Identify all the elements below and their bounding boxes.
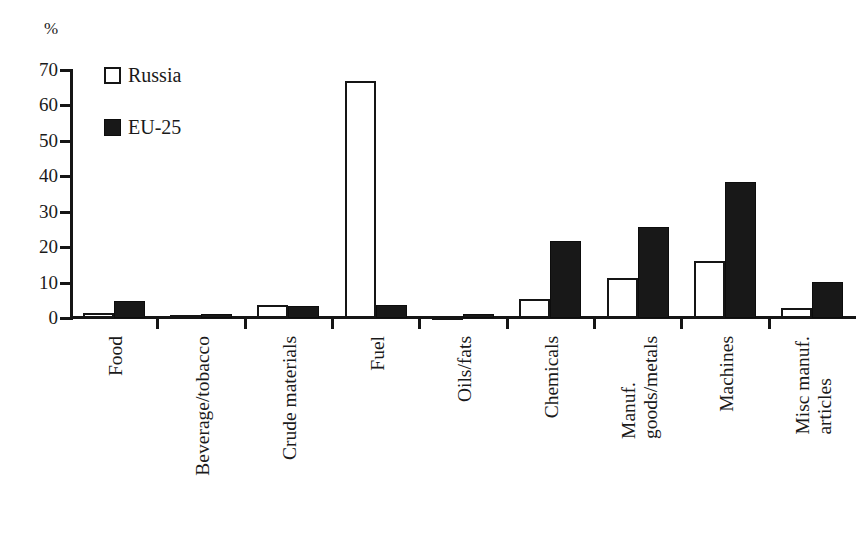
- bar-eu25-crude-materials: [288, 306, 319, 318]
- legend-swatch-filled-square-icon: [104, 119, 121, 136]
- x-axis-category-label-food: Food: [105, 336, 127, 376]
- bar-eu25-manuf-goods-metals: [638, 227, 669, 318]
- bar-russia-machines: [694, 261, 725, 318]
- x-axis-category-label-machines: Machines: [716, 336, 738, 412]
- y-axis-tick: [60, 211, 71, 214]
- bar-russia-manuf-goods-metals: [607, 278, 638, 318]
- x-axis-category-label-fuel: Fuel: [367, 336, 389, 371]
- bar-russia-beverage-tobacco: [170, 315, 201, 319]
- x-axis-category-label-chemicals: Chemicals: [541, 336, 563, 418]
- x-axis-tick: [156, 318, 159, 329]
- x-axis-category-label-line: Fuel: [367, 336, 388, 371]
- bar-eu25-oils-fats: [463, 314, 494, 318]
- x-axis-category-label-manuf-goods-metals: Manuf.goods/metals: [618, 336, 662, 439]
- x-axis-category-label-line: Misc manuf.: [792, 336, 813, 435]
- y-axis-tick-label: 10: [18, 273, 58, 292]
- bar-russia-fuel: [345, 81, 376, 318]
- y-axis-tick-label: 50: [18, 131, 58, 150]
- x-axis-category-label-line: Chemicals: [541, 336, 562, 418]
- y-axis-tick-label: 70: [18, 60, 58, 79]
- y-axis-tick-label: 30: [18, 202, 58, 221]
- bar-eu25-machines: [725, 182, 756, 318]
- bar-eu25-beverage-tobacco: [201, 314, 232, 318]
- y-axis-tick-label: 40: [18, 166, 58, 185]
- y-axis-tick: [60, 175, 71, 178]
- y-axis-tick: [60, 69, 71, 72]
- bar-eu25-fuel: [376, 305, 407, 318]
- x-axis-category-label-oils-fats: Oils/fats: [454, 336, 476, 402]
- x-axis-category-label-line: Crude materials: [279, 336, 300, 460]
- x-axis-category-label-line: Oils/fats: [454, 336, 475, 402]
- bar-eu25-food: [114, 301, 145, 318]
- x-axis-tick: [331, 318, 334, 329]
- x-axis-tick: [506, 318, 509, 329]
- x-axis-tick: [418, 318, 421, 329]
- legend-item-eu25: EU-25: [104, 114, 181, 140]
- x-axis-category-label-line: goods/metals: [640, 336, 662, 439]
- bar-eu25-chemicals: [550, 241, 581, 318]
- bar-russia-oils-fats: [432, 316, 463, 320]
- y-axis-tick: [60, 317, 71, 320]
- x-axis-category-label-line: Food: [105, 336, 126, 376]
- bar-chart: % 010203040506070 FoodBeverage/tobaccoCr…: [0, 0, 866, 543]
- x-axis-category-label-line: articles: [814, 336, 836, 435]
- y-axis-tick: [60, 282, 71, 285]
- x-axis-category-label-line: Machines: [716, 336, 737, 412]
- bar-russia-chemicals: [519, 299, 550, 318]
- x-axis-category-label-beverage-tobacco: Beverage/tobacco: [192, 336, 214, 476]
- bar-eu25-misc-manuf-articles: [812, 282, 843, 318]
- legend: Russia EU-25: [104, 62, 181, 166]
- x-axis-category-label-misc-manuf-articles: Misc manuf.articles: [792, 336, 836, 435]
- bar-russia-food: [83, 313, 114, 318]
- x-axis-tick: [680, 318, 683, 329]
- bar-russia-crude-materials: [257, 305, 288, 318]
- y-axis-tick: [60, 104, 71, 107]
- legend-label-eu25: EU-25: [128, 117, 181, 137]
- x-axis-category-label-line: Manuf.: [618, 382, 639, 439]
- y-axis-tick-label: 20: [18, 237, 58, 256]
- x-axis-category-label-crude-materials: Crude materials: [279, 336, 301, 460]
- x-axis-tick: [593, 318, 596, 329]
- legend-swatch-open-square-icon: [104, 67, 121, 84]
- bar-russia-misc-manuf-articles: [781, 308, 812, 318]
- legend-label-russia: Russia: [128, 65, 181, 85]
- legend-item-russia: Russia: [104, 62, 181, 88]
- y-axis-tick: [60, 246, 71, 249]
- x-axis-tick: [768, 318, 771, 329]
- y-axis-tick-label: 60: [18, 95, 58, 114]
- x-axis-category-label-line: Beverage/tobacco: [192, 336, 213, 476]
- x-axis-tick: [244, 318, 247, 329]
- y-axis-tick-label: 0: [18, 308, 58, 327]
- y-axis-tick: [60, 140, 71, 143]
